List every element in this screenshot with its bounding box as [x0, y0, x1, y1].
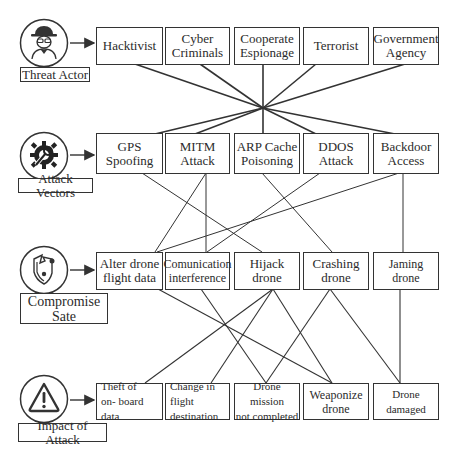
attack-vector-mitm-attack: MITM Attack [165, 133, 230, 174]
compromise-jaming-drone: Jaming drone [373, 252, 439, 290]
broken-shield-icon [19, 245, 69, 295]
category-label-attack-vectors: Attack Vectors [18, 178, 93, 193]
compromise-crashing-drone: Crashing drone [303, 252, 369, 290]
impact-drone-mission-not-completed: Drone mission not completed [234, 383, 300, 420]
compromise-comunication-interference: Comunication interference [165, 252, 230, 290]
threat-actor-cyber-criminals: Cyber Criminals [165, 27, 230, 65]
attack-vector-gps-spoofing: GPS Spoofing [96, 133, 163, 174]
category-label-compromise-sate: Compromise Sate [20, 293, 108, 324]
compromise-impact-lines [145, 289, 400, 383]
vector-compromise-lines [142, 173, 403, 252]
attack-vector-ddos-attack: DDOS Attack [303, 133, 369, 174]
warning-icon [19, 374, 69, 424]
category-label-impact-of-attack: Impact of Attack [18, 423, 107, 442]
threat-actor-hacktivist: Hacktivist [96, 27, 163, 65]
threat-actor-cooperate-espionage: Cooperate Espionage [234, 27, 300, 65]
compromise-alter-drone-flight-data: Alter drone flight data [96, 252, 163, 290]
attack-vector-backdoor-access: Backdoor Access [373, 133, 439, 174]
impact-drone-damaged: Drone damaged [373, 383, 439, 420]
spy-icon [19, 18, 69, 68]
compromise-hijack-drone: Hijack drone [234, 252, 300, 290]
impact-weaponize-drone: Weaponize drone [303, 383, 369, 420]
hub-lines [135, 64, 405, 134]
attack-vector-arp-cache-poisoning: ARP Cache Poisoning [234, 133, 300, 174]
threat-actor-terrorist: Terrorist [303, 27, 369, 65]
impact-theft-of-onboard-data: Theft of on- board data [96, 383, 163, 420]
impact-change-in-flight-destination: Change in flight destination [165, 383, 230, 420]
category-label-threat-actor: Threat Actor [20, 67, 90, 82]
threat-actor-government-agency: Government Agency [373, 27, 439, 65]
